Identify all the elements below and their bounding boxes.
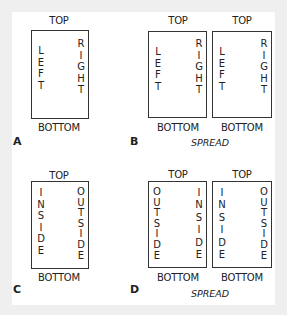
letter: F xyxy=(36,68,46,80)
figure-label: B xyxy=(130,135,138,148)
letter: I xyxy=(194,224,204,236)
letter: R xyxy=(194,38,204,50)
letter: R xyxy=(259,38,269,50)
letter: O xyxy=(152,187,162,198)
letter: O xyxy=(259,187,269,198)
letter: E xyxy=(217,58,227,70)
bottom-label: BOTTOM xyxy=(24,122,94,133)
letter: E xyxy=(152,251,162,262)
top-label: TOP xyxy=(24,15,94,26)
right-margin-text: O U T S I D E xyxy=(259,187,269,261)
letter: N xyxy=(194,199,204,211)
letter: I xyxy=(194,50,204,62)
page-box-left: O U T S I D E I N S I D E xyxy=(148,181,207,268)
bottom-label: BOTTOM xyxy=(143,272,213,283)
letter: E xyxy=(194,249,204,261)
letter: D xyxy=(217,237,227,249)
bottom-label: BOTTOM xyxy=(143,122,213,133)
page-box: I N S I D E O U T S I D E xyxy=(31,181,89,269)
right-margin-text: I N S I D E xyxy=(194,187,204,261)
letter: I xyxy=(36,222,46,234)
letter: D xyxy=(76,240,86,251)
letter: T xyxy=(259,84,269,96)
figure-label: D xyxy=(130,283,139,296)
figure-label: C xyxy=(13,283,21,296)
right-margin-text: O U T S I D E xyxy=(76,187,86,261)
letter: N xyxy=(217,199,227,211)
letter: I xyxy=(76,50,86,62)
letter: S xyxy=(194,212,204,224)
top-label: TOP xyxy=(143,169,213,180)
letter: H xyxy=(259,73,269,85)
letter: T xyxy=(217,81,227,93)
top-label: TOP xyxy=(207,169,277,180)
letter: I xyxy=(36,187,46,199)
letter: T xyxy=(76,84,86,96)
right-margin-text: R I G H T xyxy=(259,38,269,96)
page-box-right: I N S I D E O U T S I D E xyxy=(212,181,272,268)
letter: T xyxy=(153,81,163,93)
letter: I xyxy=(217,187,227,199)
letter: G xyxy=(76,61,86,73)
letter: E xyxy=(153,58,163,70)
letter: F xyxy=(153,69,163,81)
letter: N xyxy=(36,199,46,211)
left-margin-text: I N S I D E xyxy=(217,187,227,261)
right-margin-text: R I G H T xyxy=(194,38,204,96)
left-margin-text: L E F T xyxy=(153,46,163,92)
letter: R xyxy=(76,38,86,50)
letter: E xyxy=(76,251,86,262)
letter: E xyxy=(36,245,46,257)
letter: T xyxy=(36,80,46,92)
letter: D xyxy=(36,233,46,245)
left-margin-text: I N S I D E xyxy=(36,187,46,256)
bottom-label: BOTTOM xyxy=(207,122,277,133)
letter: H xyxy=(194,73,204,85)
letter: D xyxy=(152,240,162,251)
letter: F xyxy=(217,69,227,81)
top-label: TOP xyxy=(24,170,94,181)
letter: S xyxy=(217,212,227,224)
left-margin-text: L E F T xyxy=(217,46,227,92)
letter: E xyxy=(259,251,269,262)
letter: H xyxy=(76,73,86,85)
page-box-right: L E F T R I G H T xyxy=(212,31,272,118)
left-margin-text: L E F T xyxy=(36,45,46,91)
letter: I xyxy=(194,187,204,199)
letter: L xyxy=(217,46,227,58)
letter: E xyxy=(217,249,227,261)
letter: E xyxy=(36,57,46,69)
letter: O xyxy=(76,187,86,198)
spread-caption: SPREAD xyxy=(170,137,250,148)
letter: G xyxy=(259,61,269,73)
bottom-label: BOTTOM xyxy=(24,272,94,283)
letter: L xyxy=(153,46,163,58)
left-margin-text: O U T S I D E xyxy=(152,187,162,261)
right-margin-text: R I G H T xyxy=(76,38,86,96)
figure-label: A xyxy=(13,135,22,148)
letter: L xyxy=(36,45,46,57)
bottom-label: BOTTOM xyxy=(207,272,277,283)
top-label: TOP xyxy=(143,15,213,26)
letter: I xyxy=(259,50,269,62)
letter: I xyxy=(217,224,227,236)
page-box-left: L E F T R I G H T xyxy=(148,31,207,118)
letter: D xyxy=(259,240,269,251)
letter: G xyxy=(194,61,204,73)
page-box: L E F T R I G H T xyxy=(31,30,89,119)
top-label: TOP xyxy=(207,15,277,26)
spread-caption: SPREAD xyxy=(170,288,250,299)
letter: S xyxy=(36,210,46,222)
letter: D xyxy=(194,237,204,249)
letter: T xyxy=(194,84,204,96)
